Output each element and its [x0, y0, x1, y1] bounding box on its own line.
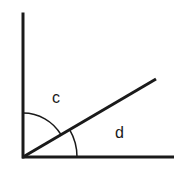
- angle-d-label: d: [115, 124, 124, 141]
- angle-diagram: c d: [0, 0, 184, 173]
- angle-c-arc: [23, 113, 61, 135]
- angle-d-arc: [70, 130, 77, 157]
- angle-c-label: c: [52, 89, 60, 106]
